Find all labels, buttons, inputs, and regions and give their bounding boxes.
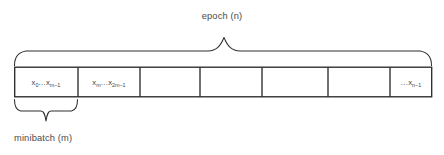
epoch-minibatch-diagram: x0...xm−1 xm...x2m−1 ...xn−1 epoch (n) m… [0,0,444,155]
epoch-brace [15,38,432,66]
minibatch-brace [15,100,78,122]
epoch-label: epoch (n) [0,11,444,21]
minibatch-label: minibatch (m) [14,133,72,143]
sequence-outline [15,67,432,97]
diagram-canvas [0,0,444,155]
